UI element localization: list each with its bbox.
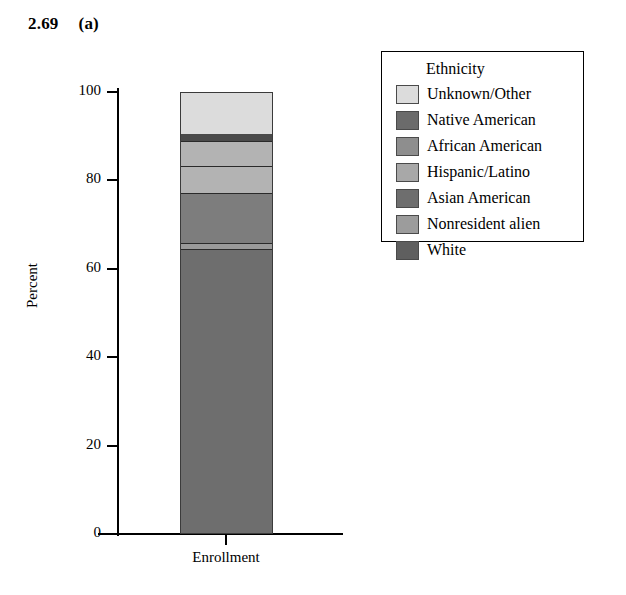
legend-swatch xyxy=(396,241,419,260)
legend-label: Hispanic/Latino xyxy=(427,163,530,181)
y-tick-label: 60 xyxy=(57,260,101,275)
y-tick-mark xyxy=(107,533,117,535)
y-tick-80: 80 xyxy=(0,179,117,181)
y-tick-label: 100 xyxy=(57,83,101,98)
legend-swatch xyxy=(396,163,419,182)
x-axis-tick-label: Enrollment xyxy=(140,549,312,566)
legend-item-native-american: Native American xyxy=(382,107,583,133)
legend-box: Ethnicity Unknown/OtherNative AmericanAf… xyxy=(381,51,584,242)
legend-swatch xyxy=(396,137,419,156)
y-tick-label: 0 xyxy=(57,525,101,540)
y-tick-label: 40 xyxy=(57,348,101,363)
bar-segment-hispanic-latino xyxy=(181,167,272,194)
bar-segment-native-american xyxy=(181,134,272,142)
legend-item-white: White xyxy=(382,237,583,263)
y-axis-line xyxy=(117,88,119,536)
legend-label: White xyxy=(427,241,466,259)
bar-segment-unknown-other xyxy=(181,93,272,134)
legend-item-asian-american: Asian American xyxy=(382,185,583,211)
legend-label: Asian American xyxy=(427,189,531,207)
legend-item-unknown-other: Unknown/Other xyxy=(382,81,583,107)
y-tick-mark xyxy=(107,91,117,93)
legend-label: African American xyxy=(427,137,542,155)
y-tick-0: 0 xyxy=(0,533,117,535)
y-tick-mark xyxy=(107,445,117,447)
legend-swatch xyxy=(396,85,419,104)
y-axis-title: Percent xyxy=(24,231,41,341)
bar-segment-african-american xyxy=(181,142,272,168)
y-tick-mark xyxy=(107,268,117,270)
legend-label: Nonresident alien xyxy=(427,215,540,233)
y-tick-mark xyxy=(107,356,117,358)
plot-area: 020406080100 Percent Enrollment xyxy=(0,0,380,595)
y-tick-60: 60 xyxy=(0,268,117,270)
legend-swatch xyxy=(396,189,419,208)
bar-segment-nonresident-alien xyxy=(181,244,272,250)
bar-segment-asian-american xyxy=(181,194,272,244)
legend-swatch xyxy=(396,215,419,234)
y-tick-label: 80 xyxy=(57,171,101,186)
stacked-bar-enrollment xyxy=(180,92,273,534)
legend-item-african-american: African American xyxy=(382,133,583,159)
y-tick-label: 20 xyxy=(57,437,101,452)
legend-items: Unknown/OtherNative AmericanAfrican Amer… xyxy=(382,81,583,263)
y-tick-40: 40 xyxy=(0,356,117,358)
figure-enrollment-ethnicity: 2.69(a) 020406080100 Percent Enrollment … xyxy=(0,0,626,595)
legend-label: Unknown/Other xyxy=(427,85,531,103)
legend-item-hispanic-latino: Hispanic/Latino xyxy=(382,159,583,185)
x-axis-tick xyxy=(225,535,227,545)
legend-title: Ethnicity xyxy=(426,60,485,78)
legend-swatch xyxy=(396,111,419,130)
y-tick-100: 100 xyxy=(0,91,117,93)
y-tick-mark xyxy=(107,179,117,181)
bar-segment-white xyxy=(181,250,272,534)
legend-item-nonresident-alien: Nonresident alien xyxy=(382,211,583,237)
legend-label: Native American xyxy=(427,111,536,129)
y-tick-20: 20 xyxy=(0,445,117,447)
